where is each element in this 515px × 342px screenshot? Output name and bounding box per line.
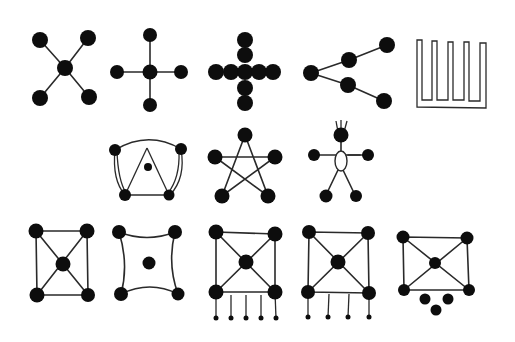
figure-plus-star: [110, 28, 188, 112]
figure-square-x-five-legs: [209, 225, 283, 321]
figure-branching-tree: [303, 37, 395, 109]
figure-comb-outline: [417, 40, 486, 108]
diagram-canvas: [0, 0, 515, 342]
figure-stick-figure: [308, 120, 374, 203]
figure-arch-triangle: [109, 140, 187, 201]
figure-curved-square: [112, 225, 185, 301]
figure-bead-cross: [208, 32, 281, 111]
figure-square-x: [29, 224, 96, 303]
figure-x-star: [32, 30, 97, 106]
figure-square-x-four-legs: [301, 225, 376, 320]
figure-square-x-three-dots: [397, 231, 476, 316]
figure-pentagram: [208, 128, 283, 204]
